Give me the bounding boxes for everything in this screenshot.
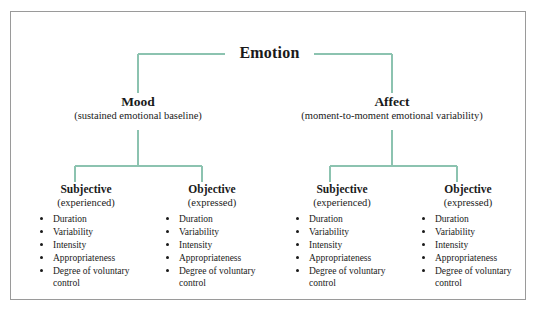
diagram-canvas: Emotion Mood (sustained emotional baseli… (0, 0, 539, 326)
branch-mood-subtitle: (sustained emotional baseline) (18, 109, 258, 123)
bullet-icon (40, 243, 43, 246)
branch-node-mood: Mood (sustained emotional baseline) (18, 94, 258, 123)
bullet-icon (422, 217, 425, 220)
bullet-icon (166, 217, 169, 220)
leaf-title: Subjective (278, 183, 406, 196)
list-item: Duration (296, 213, 406, 225)
bullet-icon (166, 230, 169, 233)
bullet-icon (422, 269, 425, 272)
leaf-subtitle: (expressed) (404, 196, 532, 209)
leaf-title: Objective (404, 183, 532, 196)
list-item: Variability (166, 226, 276, 238)
list-item: Intensity (422, 239, 532, 251)
leaf-title: Subjective (22, 183, 150, 196)
leaf-item-list: DurationVariabilityIntensityAppropriaten… (404, 213, 532, 289)
list-item: Intensity (166, 239, 276, 251)
bullet-icon (166, 256, 169, 259)
bullet-icon (40, 230, 43, 233)
leaf-subtitle: (experienced) (22, 196, 150, 209)
bullet-icon (422, 256, 425, 259)
bullet-icon (296, 243, 299, 246)
list-item: Degree of voluntary control (422, 265, 532, 289)
list-item: Duration (166, 213, 276, 225)
leaf-subtitle: (expressed) (148, 196, 276, 209)
bullet-icon (296, 217, 299, 220)
bullet-icon (296, 256, 299, 259)
list-item: Appropriateness (296, 252, 406, 264)
leaf-item-list: DurationVariabilityIntensityAppropriaten… (278, 213, 406, 289)
bullet-icon (296, 230, 299, 233)
bullet-icon (166, 243, 169, 246)
list-item: Duration (40, 213, 150, 225)
list-item: Appropriateness (422, 252, 532, 264)
list-item: Degree of voluntary control (166, 265, 276, 289)
list-item: Intensity (40, 239, 150, 251)
root-node-label: Emotion (230, 44, 308, 62)
bullet-icon (296, 269, 299, 272)
root-node: Emotion (0, 44, 539, 62)
leaf-title: Objective (148, 183, 276, 196)
list-item: Variability (296, 226, 406, 238)
leaf-node-mood-objective: Objective (expressed) DurationVariabilit… (148, 183, 276, 290)
list-item: Appropriateness (166, 252, 276, 264)
list-item: Degree of voluntary control (40, 265, 150, 289)
list-item: Variability (422, 226, 532, 238)
bullet-icon (40, 256, 43, 259)
list-item: Duration (422, 213, 532, 225)
branch-affect-subtitle: (moment-to-moment emotional variability) (272, 109, 512, 123)
list-item: Appropriateness (40, 252, 150, 264)
list-item: Intensity (296, 239, 406, 251)
list-item: Variability (40, 226, 150, 238)
branch-mood-label: Mood (18, 94, 258, 109)
bullet-icon (422, 230, 425, 233)
branch-affect-label: Affect (272, 94, 512, 109)
leaf-node-mood-subjective: Subjective (experienced) DurationVariabi… (22, 183, 150, 290)
list-item: Degree of voluntary control (296, 265, 406, 289)
leaf-node-affect-subjective: Subjective (experienced) DurationVariabi… (278, 183, 406, 290)
leaf-item-list: DurationVariabilityIntensityAppropriaten… (148, 213, 276, 289)
leaf-item-list: DurationVariabilityIntensityAppropriaten… (22, 213, 150, 289)
bullet-icon (166, 269, 169, 272)
bullet-icon (40, 269, 43, 272)
branch-node-affect: Affect (moment-to-moment emotional varia… (272, 94, 512, 123)
leaf-node-affect-objective: Objective (expressed) DurationVariabilit… (404, 183, 532, 290)
bullet-icon (40, 217, 43, 220)
leaf-subtitle: (experienced) (278, 196, 406, 209)
bullet-icon (422, 243, 425, 246)
